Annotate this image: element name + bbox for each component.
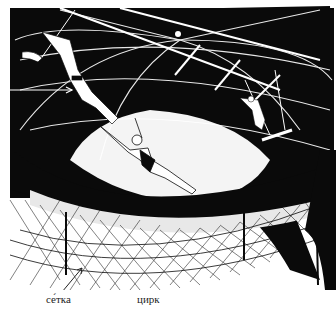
- circus-label: цирк: [137, 293, 160, 305]
- circus-illustration: [0, 0, 336, 290]
- net-label: се́тка: [46, 293, 71, 305]
